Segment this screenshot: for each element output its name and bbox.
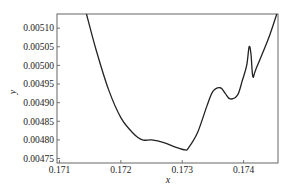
x-tick-label: 0.174 xyxy=(233,165,255,175)
y-tick-label: 0.00495 xyxy=(23,79,54,89)
y-axis: 0.004750.004800.004850.004900.004950.005… xyxy=(23,23,60,163)
plot-frame xyxy=(57,14,278,163)
x-tick-label: 0.172 xyxy=(110,165,132,175)
y-tick-label: 0.00490 xyxy=(23,98,54,108)
plot-area xyxy=(57,14,278,163)
y-tick-label: 0.00500 xyxy=(23,61,54,71)
x-tick-label: 0.171 xyxy=(49,165,71,175)
x-axis: 0.1710.1720.1730.174 xyxy=(49,160,255,175)
data-line-0 xyxy=(86,14,276,150)
y-axis-label: y xyxy=(7,89,18,95)
line-chart: 0.004750.004800.004850.004900.004950.005… xyxy=(0,0,286,191)
x-axis-label: x xyxy=(165,174,171,185)
y-tick-label: 0.00480 xyxy=(23,135,54,145)
y-tick-label: 0.00485 xyxy=(23,117,54,127)
y-tick-label: 0.00510 xyxy=(23,23,54,33)
y-tick-label: 0.00505 xyxy=(23,42,54,52)
x-tick-label: 0.173 xyxy=(172,165,194,175)
chart-svg: 0.004750.004800.004850.004900.004950.005… xyxy=(0,0,286,191)
y-tick-label: 0.00475 xyxy=(23,154,54,164)
